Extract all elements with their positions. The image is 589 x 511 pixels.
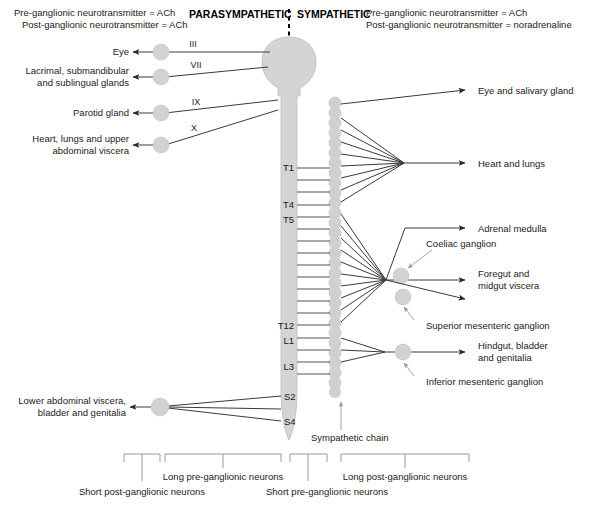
label-cn-iii-target: Eye (113, 46, 129, 57)
label-cn-x-target-2: abdominal viscera (52, 145, 129, 156)
autonomic-nervous-system-diagram: PARASYMPATHETIC SYMPATHETIC Pre-ganglion… (0, 0, 589, 511)
note-para-pre: Pre-ganglionic neurotransmitter = ACh (14, 7, 175, 18)
label-segment-t4: T4 (283, 199, 294, 210)
ganglion-cn-x (153, 137, 169, 153)
ganglion-superior-mesenteric (395, 289, 411, 305)
label-cn-ix-target: Parotid gland (73, 107, 129, 118)
label-bracket-1: Short post-ganglionic neurons (79, 486, 205, 497)
label-foregut-1: Foregut and (478, 268, 529, 279)
symp-target-eye-salivary: Eye and salivary gland (341, 85, 574, 104)
ganglion-cn-ix (153, 105, 169, 121)
header-sympathetic: SYMPATHETIC (297, 8, 371, 20)
label-bracket-3: Short pre-ganglionic neurons (266, 486, 388, 497)
label-cn-vii-target-1: Lacrimal, submandibular (26, 65, 130, 76)
label-eye-salivary-gland: Eye and salivary gland (478, 85, 574, 96)
bracket-long-post-ganglionic: Long post-ganglionic neurons (341, 454, 469, 482)
label-cn-iii-numeral: III (189, 39, 197, 49)
label-segment-l3: L3 (283, 361, 294, 372)
label-sacral-target-1: Lower abdominal viscera, (18, 395, 126, 406)
note-symp-post: Post-ganglionic neurotransmitter = norad… (366, 19, 572, 30)
label-heart-and-lungs: Heart and lungs (478, 158, 545, 169)
label-segment-s2: S2 (284, 391, 296, 402)
spinal-roots-thoracolumbar (297, 168, 330, 374)
label-adrenal-medulla: Adrenal medulla (478, 223, 547, 234)
label-segment-l1: L1 (283, 335, 294, 346)
symp-abdominal-fan (341, 214, 386, 322)
ganglion-cn-iii (153, 44, 169, 60)
label-superior-mesenteric-ganglion: Superior mesenteric ganglion (426, 320, 550, 331)
label-foregut-2: midgut viscera (478, 280, 540, 291)
coeliac-ganglion-pointer (408, 250, 432, 268)
diagram-page: PARASYMPATHETIC SYMPATHETIC Pre-ganglion… (0, 0, 589, 511)
ganglion-inferior-mesenteric (395, 344, 411, 360)
label-cn-ix-numeral: IX (192, 97, 201, 107)
symp-target-heart-lungs: Heart and lungs (341, 118, 545, 202)
label-bracket-4: Long post-ganglionic neurons (343, 471, 468, 482)
note-symp-pre: Pre-ganglionic neurotransmitter = ACh (366, 7, 527, 18)
sacral-outflow: Lower abdominal viscera, bladder and gen… (18, 391, 295, 427)
label-inferior-mesenteric-ganglion: Inferior mesenteric ganglion (426, 376, 543, 387)
label-cn-vii-numeral: VII (190, 60, 201, 70)
bracket-long-pre-ganglionic: Long pre-ganglionic neurons (163, 454, 284, 482)
label-cn-vii-target-2: and sublingual glands (37, 77, 129, 88)
ganglion-pelvic (151, 398, 169, 416)
inferior-mesenteric-ganglion-pointer (404, 363, 414, 376)
ganglion-cn-vii (153, 69, 169, 85)
ganglion-coeliac (393, 268, 409, 284)
note-para-post: Post-ganglionic neurotransmitter = ACh (22, 19, 188, 30)
superior-mesenteric-ganglion-pointer (404, 307, 414, 320)
label-coeliac-ganglion: Coeliac ganglion (426, 238, 496, 249)
label-segment-t12: T12 (278, 320, 294, 331)
header-parasympathetic: PARASYMPATHETIC (189, 8, 292, 20)
label-sympathetic-chain: Sympathetic chain (311, 432, 389, 443)
symp-target-foregut: Foregut and midgut viscera (386, 268, 540, 291)
label-hindgut-1: Hindgut, bladder (478, 340, 548, 351)
brainstem-spinal-cord (262, 37, 316, 440)
label-sacral-target-2: bladder and genitalia (38, 407, 127, 418)
sympathetic-chain (329, 97, 342, 399)
label-segment-t1: T1 (283, 162, 294, 173)
label-bracket-2: Long pre-ganglionic neurons (163, 471, 284, 482)
symp-branch-superior-mesenteric (386, 280, 465, 305)
label-cn-x-target-1: Heart, lungs and upper (32, 133, 129, 144)
label-segment-t5: T5 (283, 214, 294, 225)
symp-target-hindgut: Hindgut, bladder and genitalia (341, 338, 548, 363)
label-segment-s4: S4 (284, 416, 296, 427)
cranial-nerve-ix: IX Parotid gland (73, 97, 278, 121)
label-hindgut-2: and genitalia (478, 352, 533, 363)
cranial-nerve-iii: III Eye (113, 39, 270, 60)
cranial-nerve-vii: VII Lacrimal, submandibular and sublingu… (26, 60, 269, 88)
label-cn-x-numeral: X (191, 123, 197, 133)
